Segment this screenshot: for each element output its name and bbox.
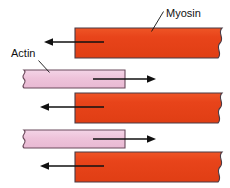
filament-myosin-1 bbox=[75, 28, 222, 58]
filament-myosin-2 bbox=[75, 93, 222, 123]
actin-label-text: Actin bbox=[11, 47, 35, 59]
myosin-label-text: Myosin bbox=[166, 7, 201, 19]
myosin-bar-1 bbox=[75, 28, 222, 58]
filament-myosin-3 bbox=[75, 152, 222, 182]
diagram-canvas: Myosin Actin bbox=[0, 0, 230, 188]
sliding-filament-diagram: Myosin Actin bbox=[0, 0, 230, 188]
myosin-bar-2 bbox=[75, 93, 222, 123]
myosin-bar-3 bbox=[75, 152, 222, 182]
